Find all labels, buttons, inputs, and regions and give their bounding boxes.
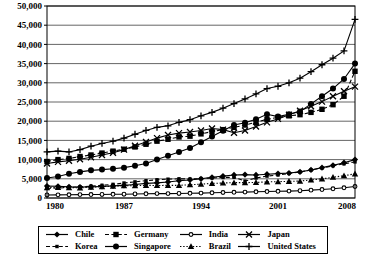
data-point-marker <box>176 149 182 155</box>
data-point-marker <box>331 187 335 191</box>
data-point-marker <box>286 111 292 117</box>
legend-marker-india <box>179 229 203 240</box>
x-axis-tick-label: 1994 <box>192 201 211 211</box>
legend-key-7 <box>235 240 265 252</box>
data-point-marker <box>144 192 148 196</box>
legend-marker-korea <box>45 241 69 252</box>
data-point-marker <box>210 191 214 195</box>
data-point-marker <box>188 177 191 180</box>
data-point-marker <box>99 167 105 173</box>
chart-figure: 05,00010,00015,00020,00025,00030,00035,0… <box>0 0 368 258</box>
data-point-marker <box>67 193 71 197</box>
y-axis-tick-label: 0 <box>38 193 43 203</box>
y-axis-tick-labels: 05,00010,00015,00020,00025,00030,00035,0… <box>17 1 42 203</box>
data-point-marker <box>100 193 104 197</box>
data-point-marker <box>187 145 193 151</box>
data-point-marker <box>275 114 281 120</box>
data-point-marker <box>188 191 192 195</box>
legend-key-5 <box>102 240 132 252</box>
data-point-marker <box>309 188 313 192</box>
data-point-marker <box>143 160 149 166</box>
legend-label-4: Korea <box>73 240 102 252</box>
data-point-marker <box>331 164 334 167</box>
legend-label-0: Chile <box>73 228 102 240</box>
data-point-marker <box>319 107 324 112</box>
data-point-marker <box>144 179 147 182</box>
legend-label-1: Germany <box>132 228 177 240</box>
data-point-marker <box>298 170 301 173</box>
x-axis-tick-labels: 19801987199420012008 <box>46 201 357 211</box>
data-point-marker <box>264 111 270 117</box>
data-point-marker <box>210 176 213 179</box>
data-point-marker <box>254 190 258 194</box>
data-point-marker <box>232 190 236 194</box>
legend-label-6: Brazil <box>207 240 236 252</box>
data-point-marker <box>242 120 248 126</box>
data-point-marker <box>254 176 257 179</box>
data-point-marker <box>220 128 226 134</box>
data-point-marker <box>155 178 158 181</box>
x-axis-tick-label: 2001 <box>269 201 288 211</box>
data-point-marker <box>54 231 60 237</box>
data-point-marker <box>342 186 346 190</box>
data-point-marker <box>243 190 247 194</box>
data-point-marker <box>246 243 253 250</box>
data-point-marker <box>199 177 202 180</box>
data-point-marker <box>308 101 314 107</box>
data-point-marker <box>132 163 138 169</box>
data-point-marker <box>308 110 313 115</box>
y-axis-tick-label: 25,000 <box>17 97 42 107</box>
data-point-marker <box>265 174 268 177</box>
data-point-marker <box>276 189 280 193</box>
data-point-marker <box>113 231 118 236</box>
legend-key-1 <box>102 228 132 240</box>
data-point-marker <box>199 191 203 195</box>
x-axis-tick-label: 2008 <box>338 201 357 211</box>
data-point-marker <box>265 190 269 194</box>
y-axis-tick-label: 5,000 <box>22 174 43 184</box>
data-point-marker <box>189 232 193 236</box>
y-axis-tick-label: 30,000 <box>17 78 42 88</box>
data-point-marker <box>341 94 346 99</box>
data-point-marker <box>221 176 224 179</box>
data-point-marker <box>113 243 119 249</box>
data-point-marker <box>154 157 160 163</box>
legend-table: Chile Germany India Japan Korea Singapor… <box>43 228 323 252</box>
data-point-marker <box>341 76 347 82</box>
plot-area-container: 05,00010,00015,00020,00025,00030,00035,0… <box>0 0 368 216</box>
data-point-marker <box>231 122 237 128</box>
data-point-marker <box>177 177 180 180</box>
data-point-marker <box>56 193 60 197</box>
data-point-marker <box>330 102 335 107</box>
data-point-marker <box>77 169 83 175</box>
data-point-marker <box>122 192 126 196</box>
data-point-marker <box>121 165 127 171</box>
x-axis-tick-label: 1987 <box>115 201 134 211</box>
data-point-marker <box>89 193 93 197</box>
x-axis-tick-label: 1980 <box>46 201 65 211</box>
legend-marker-japan <box>237 229 261 240</box>
legend-marker-chile <box>45 229 69 240</box>
data-point-marker <box>297 109 303 115</box>
y-axis-tick-label: 45,000 <box>17 20 42 30</box>
data-point-marker <box>155 192 159 196</box>
data-point-marker <box>330 86 336 92</box>
y-axis-tick-label: 40,000 <box>17 40 42 50</box>
data-point-marker <box>309 168 312 171</box>
data-point-marker <box>66 171 72 177</box>
data-point-marker <box>342 162 345 165</box>
data-point-marker <box>166 192 170 196</box>
data-point-marker <box>133 192 137 196</box>
legend-key-0 <box>43 228 73 240</box>
data-point-marker <box>78 193 82 197</box>
y-axis-tick-label: 50,000 <box>17 1 42 11</box>
data-point-marker <box>319 93 325 99</box>
legend-marker-singapore <box>104 241 128 252</box>
data-point-marker <box>88 167 94 173</box>
data-point-marker <box>253 116 259 122</box>
legend-marker-germany <box>104 229 128 240</box>
legend-key-3 <box>235 228 265 240</box>
data-point-marker <box>287 189 291 193</box>
data-point-marker <box>320 188 324 192</box>
legend-key-4 <box>43 240 73 252</box>
